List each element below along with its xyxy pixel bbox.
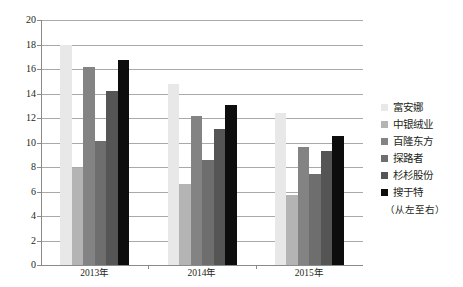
bar <box>286 195 298 265</box>
y-axis-tick-label: 8 <box>2 162 36 172</box>
legend-swatch-icon <box>381 138 388 145</box>
bars-layer <box>41 20 363 265</box>
y-axis-tick-label: 2 <box>2 236 36 246</box>
bar-group <box>60 20 129 265</box>
y-axis-tick-label: 12 <box>2 113 36 123</box>
legend-swatch-icon <box>381 155 388 162</box>
legend-label: 搜于特 <box>393 187 423 199</box>
bar <box>275 113 287 265</box>
legend-label: 杉杉股份 <box>393 170 433 182</box>
legend-item: 百隆东方 <box>381 133 461 150</box>
legend-label: 富安娜 <box>393 102 423 114</box>
legend-swatch-icon <box>381 189 388 196</box>
y-axis-tick-label: 16 <box>2 64 36 74</box>
y-axis-labels: 02468101214161820 <box>0 20 36 265</box>
bar <box>309 174 321 265</box>
bar <box>72 168 84 265</box>
y-axis-tick-label: 0 <box>2 260 36 270</box>
bar <box>179 184 191 265</box>
y-axis-tick-label: 4 <box>2 211 36 221</box>
legend-item: 杉杉股份 <box>381 167 461 184</box>
bar <box>95 141 107 265</box>
x-axis-label: 2015年 <box>256 268 363 279</box>
y-axis-tick-label: 14 <box>2 89 36 99</box>
legend: 富安娜中银绒业百隆东方探路者杉杉股份搜于特（从左至右） <box>381 99 461 216</box>
legend-swatch-icon <box>381 121 388 128</box>
bar <box>118 60 130 265</box>
grouped-bar-chart: 02468101214161820 2013年2014年2015年 富安娜中银绒… <box>0 0 463 287</box>
legend-item: 中银绒业 <box>381 116 461 133</box>
y-axis-tick-label: 6 <box>2 187 36 197</box>
legend-swatch-icon <box>381 104 388 111</box>
bar <box>60 45 72 266</box>
legend-label: 中银绒业 <box>393 119 433 131</box>
x-axis-labels: 2013年2014年2015年 <box>41 268 363 284</box>
legend-item: 探路者 <box>381 150 461 167</box>
legend-label: 探路者 <box>393 153 423 165</box>
y-axis-tick-label: 18 <box>2 40 36 50</box>
bar <box>83 67 95 265</box>
bar <box>225 105 237 265</box>
x-axis-label: 2014年 <box>148 268 255 279</box>
bar <box>168 84 180 265</box>
legend-label: 百隆东方 <box>393 136 433 148</box>
plot-area <box>41 20 363 265</box>
x-axis-label: 2013年 <box>41 268 148 279</box>
bar <box>106 91 118 265</box>
bar <box>202 160 214 265</box>
bar <box>321 151 333 265</box>
bar <box>191 116 203 265</box>
legend-item: 富安娜 <box>381 99 461 116</box>
y-axis-tick-label: 20 <box>2 15 36 25</box>
bar-group <box>275 20 344 265</box>
legend-note: （从左至右） <box>381 204 461 216</box>
bar <box>214 129 226 265</box>
bar <box>332 136 344 265</box>
legend-item: 搜于特 <box>381 184 461 201</box>
y-axis-tick-label: 10 <box>2 138 36 148</box>
legend-swatch-icon <box>381 172 388 179</box>
bar-group <box>168 20 237 265</box>
bar <box>298 147 310 265</box>
